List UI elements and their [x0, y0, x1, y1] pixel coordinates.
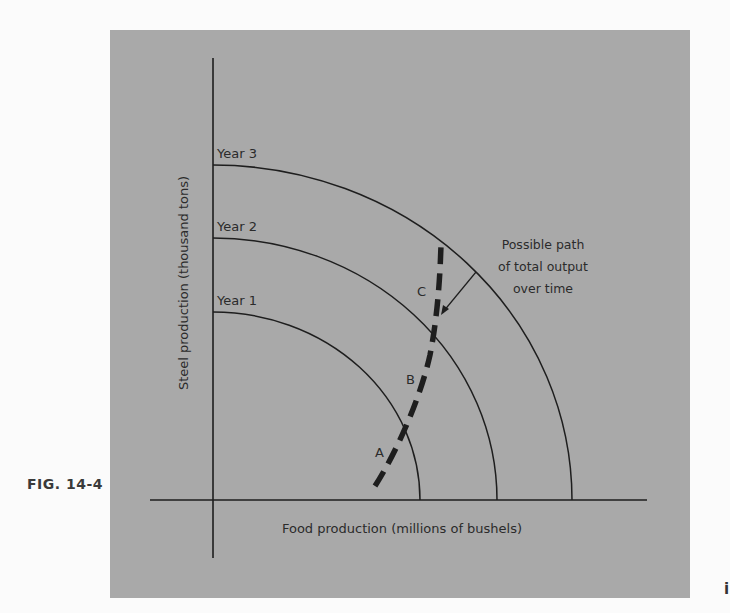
annotation-line-3: over time — [513, 281, 573, 296]
label-year-2: Year 2 — [216, 219, 257, 234]
annotation-line-2: of total output — [498, 259, 588, 274]
cropped-margin-text: i — [724, 580, 729, 598]
label-year-3: Year 3 — [216, 146, 257, 161]
figure-label: FIG. 14-4 — [27, 476, 103, 492]
curve-year-1 — [213, 312, 420, 500]
point-label-a: A — [375, 445, 384, 460]
y-axis-label: Steel production (thousand tons) — [176, 176, 191, 390]
output-path-dashed — [375, 245, 441, 486]
curve-year-2 — [213, 238, 497, 500]
label-year-1: Year 1 — [216, 293, 257, 308]
annotation-arrow-line — [443, 272, 476, 312]
ppf-chart: Year 3 Year 2 Year 1 A B C Possible path… — [0, 0, 730, 613]
point-label-b: B — [406, 372, 415, 387]
point-label-c: C — [417, 284, 426, 299]
x-axis-label: Food production (millions of bushels) — [282, 521, 522, 536]
annotation-line-1: Possible path — [502, 237, 585, 252]
